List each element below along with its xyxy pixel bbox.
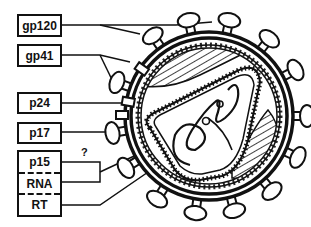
- label-gp41-text: gp41: [19, 46, 60, 65]
- label-group-p15-rna-rt: p15 RNA RT: [17, 150, 62, 217]
- label-p24: p24: [17, 92, 62, 114]
- label-gp120-text: gp120: [19, 16, 60, 35]
- uncertain-marker: ?: [81, 146, 88, 158]
- label-p17-text: p17: [19, 124, 60, 142]
- label-rt-text: RT: [19, 193, 60, 215]
- label-gp120: gp120: [17, 14, 62, 37]
- label-p17: p17: [17, 122, 62, 144]
- label-p24-text: p24: [19, 94, 60, 112]
- label-gp41: gp41: [17, 44, 62, 67]
- label-rna-text: RNA: [19, 172, 60, 194]
- label-p15-text: p15: [19, 152, 60, 172]
